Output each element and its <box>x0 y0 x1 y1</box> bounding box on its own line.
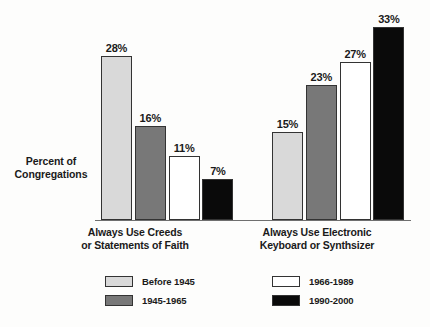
bar[interactable] <box>272 132 303 220</box>
bar-group-2-series-2: 23% <box>306 20 337 220</box>
category-label-creeds: Always Use Creeds or Statements of Faith <box>70 226 200 252</box>
legend-column-left: Before 1945 1945-1965 <box>105 272 195 310</box>
legend-item-before-1945[interactable]: Before 1945 <box>105 272 195 291</box>
bar-value-label: 33% <box>378 13 399 25</box>
bar-group-1-series-2: 16% <box>135 20 166 220</box>
category-label-keyboard: Always Use Electronic Keyboard or Synths… <box>243 226 391 252</box>
x-axis-line <box>95 220 411 221</box>
bar-group-2-series-4: 33% <box>373 20 404 220</box>
bar[interactable] <box>101 56 132 220</box>
bar[interactable] <box>306 85 337 220</box>
bar-group-1-series-3: 11% <box>169 20 200 220</box>
legend-column-right: 1966-1989 1990-2000 <box>272 272 354 310</box>
legend-item-1990-2000[interactable]: 1990-2000 <box>272 291 354 310</box>
legend-swatch-icon <box>272 295 300 306</box>
legend-item-label: Before 1945 <box>142 276 195 287</box>
category-label-line2: Keyboard or Synthsizer <box>243 239 391 252</box>
legend-item-label: 1966-1989 <box>309 276 354 287</box>
category-label-line1: Always Use Electronic <box>243 226 391 239</box>
legend-swatch-icon <box>105 295 133 306</box>
legend-item-1966-1989[interactable]: 1966-1989 <box>272 272 354 291</box>
legend-swatch-icon <box>105 276 133 287</box>
bar-value-label: 27% <box>344 48 365 60</box>
category-label-line2: or Statements of Faith <box>70 239 200 252</box>
bar-value-label: 23% <box>311 71 332 83</box>
bar-chart: Percent of Congregations 28%16%11%7%15%2… <box>0 0 430 327</box>
bar[interactable] <box>169 156 200 220</box>
bar[interactable] <box>135 126 166 220</box>
bar-group-1-series-4: 7% <box>202 20 233 220</box>
bar-value-label: 11% <box>174 142 195 154</box>
bar-value-label: 15% <box>277 118 298 130</box>
bar-value-label: 28% <box>106 42 127 54</box>
bar[interactable] <box>202 179 233 220</box>
legend-item-1945-1965[interactable]: 1945-1965 <box>105 291 195 310</box>
bar[interactable] <box>340 62 371 220</box>
category-label-line1: Always Use Creeds <box>70 226 200 239</box>
plot-area: 28%16%11%7%15%23%27%33% <box>0 0 430 327</box>
legend-item-label: 1945-1965 <box>142 295 187 306</box>
bar-group-1-series-1: 28% <box>101 20 132 220</box>
bar-value-label: 7% <box>210 165 226 177</box>
bar-group-2-series-3: 27% <box>340 20 371 220</box>
bar-group-2-series-1: 15% <box>272 20 303 220</box>
legend-swatch-icon <box>272 276 300 287</box>
bar-value-label: 16% <box>140 112 161 124</box>
bar[interactable] <box>373 27 404 220</box>
legend-item-label: 1990-2000 <box>309 295 354 306</box>
